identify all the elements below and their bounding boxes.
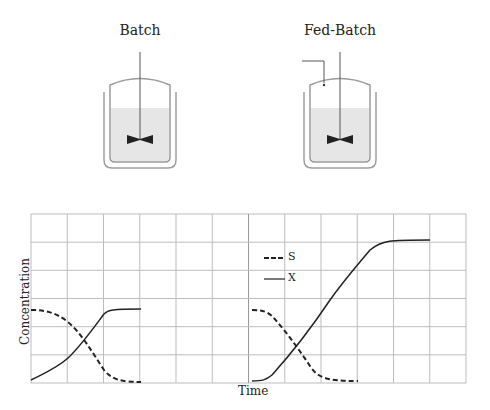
fed-batch-vessel-icon [302, 52, 376, 168]
batch-vessel-icon [104, 52, 176, 168]
fed-batch-s-curve [252, 310, 358, 381]
fed-batch-x-curve [252, 240, 430, 381]
x-axis-label: Time [238, 384, 268, 398]
batch-x-curve [31, 309, 141, 380]
legend-x-label: X [288, 271, 296, 284]
legend-s-label: S [288, 250, 296, 263]
y-axis-label: Concentration [18, 258, 32, 345]
diagram-canvas [0, 0, 490, 410]
chart-grid [31, 214, 466, 383]
feed-line-icon [302, 61, 324, 83]
